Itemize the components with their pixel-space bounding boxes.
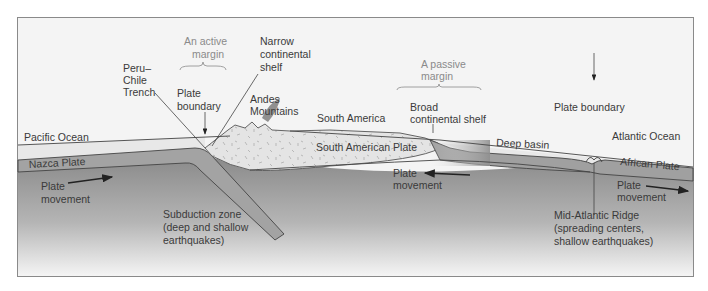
active-margin-label-2: margin: [192, 48, 224, 60]
plate-movement-left-label: Plate: [41, 180, 65, 192]
narrow-shelf-label: Narrow: [260, 35, 294, 47]
andes-label: Andes: [250, 93, 280, 105]
plate-movement-right-label-2: movement: [617, 191, 666, 203]
peru-chile-trench-label-3: Trench: [123, 86, 155, 98]
plate-boundary-left-label-2: boundary: [177, 100, 222, 112]
narrow-shelf-label-2: continental: [260, 48, 311, 60]
subduction-zone-label: Subduction zone: [163, 208, 241, 220]
broad-shelf-label: Broad: [410, 101, 438, 113]
andes-label-2: Mountains: [250, 105, 298, 117]
passive-margin-label-2: margin: [421, 70, 453, 82]
subduction-zone-label-3: earthquakes): [163, 234, 224, 246]
plate-movement-center-label: Plate: [393, 167, 417, 179]
peru-chile-trench-label: Peru–: [123, 62, 151, 74]
plate-movement-right-label: Plate: [617, 179, 641, 191]
plate-tectonics-diagram: An active margin Narrow continental shel…: [0, 0, 708, 291]
plate-movement-center-label-2: movement: [393, 179, 442, 191]
mid-atlantic-ridge-label-2: (spreading centers,: [554, 222, 644, 234]
south-america-label: South America: [317, 112, 385, 124]
plate-movement-left-label-2: movement: [41, 193, 90, 205]
south-american-plate-label: South American Plate: [316, 141, 417, 153]
atlantic-ocean-label: Atlantic Ocean: [612, 130, 680, 142]
pacific-ocean-label: Pacific Ocean: [24, 131, 89, 143]
mid-atlantic-ridge-label: Mid-Atlantic Ridge: [554, 209, 639, 221]
narrow-shelf-label-3: shelf: [260, 61, 282, 73]
plate-boundary-left-label: Plate: [177, 87, 201, 99]
broad-shelf-label-2: continental shelf: [410, 113, 486, 125]
passive-margin-label: A passive: [421, 58, 466, 70]
peru-chile-trench-label-2: Chile: [123, 74, 147, 86]
basin-shading: [430, 140, 490, 166]
active-margin-label: An active: [184, 35, 227, 47]
subduction-zone-label-2: (deep and shallow: [163, 221, 249, 233]
mid-atlantic-ridge-label-3: shallow earthquakes): [554, 235, 653, 247]
plate-boundary-right-label: Plate boundary: [554, 101, 625, 113]
